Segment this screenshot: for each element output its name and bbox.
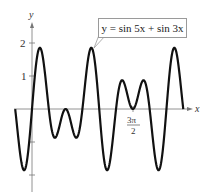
y-tick-label-1: 1 (21, 70, 27, 82)
y-tick-label-2: 2 (20, 37, 26, 49)
x-axis-label: x (194, 103, 200, 114)
y-axis-label: y (28, 9, 34, 20)
function-callout: y = sin 5x + sin 3x (98, 18, 187, 38)
x-tick-label-3pi2-den: 2 (131, 126, 136, 136)
y-axis-arrow (30, 22, 34, 28)
x-axis-arrow (187, 107, 193, 111)
x-tick-label-3pi2-num: 3π (127, 115, 137, 125)
